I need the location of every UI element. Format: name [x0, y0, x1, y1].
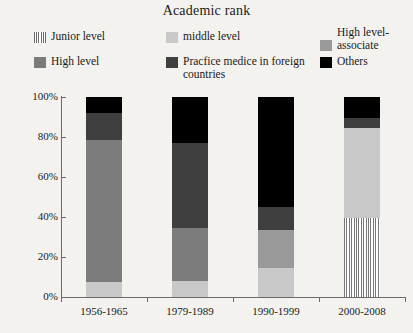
bar-segment[interactable]: [344, 128, 380, 218]
bar-segment[interactable]: [172, 281, 208, 297]
bar-segment[interactable]: [172, 97, 208, 143]
bar-segment[interactable]: [258, 268, 294, 297]
y-axis-tick-label-text: 20%: [6, 251, 58, 262]
x-axis-tick: [319, 297, 320, 302]
y-axis-tick: [61, 97, 66, 98]
y-axis-line: [61, 96, 62, 298]
x-axis-tick-label: 1990-1999: [231, 305, 321, 317]
bar-segment[interactable]: [258, 230, 294, 268]
bar-segment[interactable]: [172, 228, 208, 281]
y-axis-tick-label: 40%: [0, 211, 58, 222]
y-axis-tick-label: 100%: [0, 91, 58, 102]
y-axis-tick-label-text: 80%: [6, 131, 58, 142]
stacked-bar[interactable]: [258, 97, 294, 297]
stacked-bar[interactable]: [86, 97, 122, 297]
y-axis-tick-label: 80%: [0, 131, 58, 142]
y-axis-tick-label-text: 40%: [6, 211, 58, 222]
bar-segment[interactable]: [258, 207, 294, 230]
y-axis-tick-label: 0%: [0, 291, 58, 302]
x-axis-tick-label: 1979-1989: [145, 305, 235, 317]
y-axis-tick-label-text: 60%: [6, 171, 58, 182]
bar-segment[interactable]: [344, 118, 380, 128]
x-axis-tick-label: 2000-2008: [317, 305, 407, 317]
stacked-bar[interactable]: [172, 97, 208, 297]
bar-segment[interactable]: [344, 97, 380, 118]
x-axis-tick: [405, 297, 406, 302]
x-axis-tick: [147, 297, 148, 302]
y-axis-tick: [61, 217, 66, 218]
stacked-bar[interactable]: [344, 97, 380, 297]
y-axis-tick-label-text: 100%: [6, 91, 58, 102]
plot-area: 0%20%40%60%80%100% 1956-19651979-1989199…: [0, 0, 413, 333]
bar-segment[interactable]: [86, 282, 122, 297]
y-axis-tick: [61, 137, 66, 138]
x-axis-tick-label: 1956-1965: [59, 305, 149, 317]
y-axis-tick-label: 60%: [0, 171, 58, 182]
x-axis-tick: [233, 297, 234, 302]
bar-segment[interactable]: [172, 143, 208, 228]
y-axis-tick-label-text: 0%: [6, 291, 58, 302]
y-axis-tick: [61, 257, 66, 258]
y-axis-tick-label: 20%: [0, 251, 58, 262]
bar-segment[interactable]: [86, 140, 122, 282]
bar-segment[interactable]: [344, 218, 380, 297]
bar-segment[interactable]: [86, 113, 122, 140]
x-axis-tick: [61, 297, 62, 302]
y-axis-tick: [61, 177, 66, 178]
bar-segment[interactable]: [86, 97, 122, 113]
bar-segment[interactable]: [258, 97, 294, 207]
